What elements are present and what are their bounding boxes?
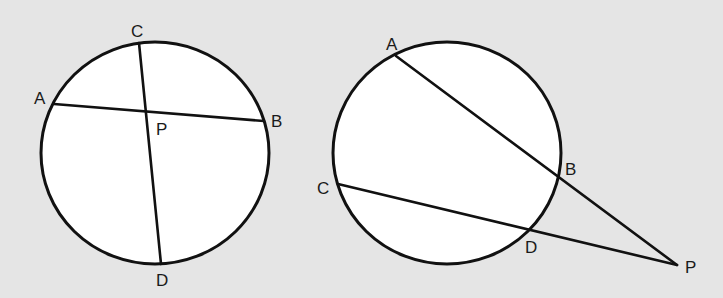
- label-a-right: A: [386, 35, 398, 54]
- label-c-right: C: [317, 179, 329, 198]
- geometry-diagram: A B C D P A B C D P: [0, 0, 723, 298]
- label-c-left: C: [131, 22, 143, 41]
- figure-secants: A B C D P: [317, 35, 696, 277]
- figure-intersecting-chords: A B C D P: [34, 22, 282, 290]
- label-p-left: P: [156, 120, 167, 139]
- label-p-right: P: [685, 258, 696, 277]
- label-b-left: B: [271, 112, 282, 131]
- diagram-canvas: A B C D P A B C D P: [0, 0, 723, 298]
- circle-left: [41, 42, 269, 264]
- label-b-right: B: [565, 160, 576, 179]
- label-a-left: A: [34, 89, 46, 108]
- label-d-right: D: [525, 238, 537, 257]
- label-d-left: D: [156, 271, 168, 290]
